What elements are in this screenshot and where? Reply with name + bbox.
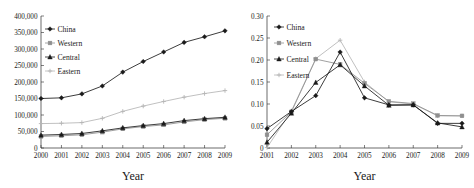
data-point-marker-plus <box>277 73 281 77</box>
data-point-marker-diamond <box>202 34 207 39</box>
data-point-marker-plus <box>141 104 145 108</box>
series-line <box>41 91 225 124</box>
data-point-marker-diamond <box>48 27 53 32</box>
y-tick-label: 0.25 <box>251 35 264 43</box>
y-tick-label: 0.10 <box>251 101 264 109</box>
data-point-marker-square <box>460 114 464 118</box>
y-tick-label: 0.05 <box>251 123 264 131</box>
y-tick-label: 50,000 <box>18 128 38 136</box>
x-tick-label: 2004 <box>333 152 348 160</box>
legend-marker-plus <box>45 69 55 73</box>
y-tick-label: 100,000 <box>14 112 38 120</box>
legend-marker-diamond <box>45 27 55 32</box>
y-tick-label: 0.30 <box>251 13 264 21</box>
data-point-marker-plus <box>161 99 165 103</box>
legend: ChinaWesternCentralEastern <box>45 25 82 76</box>
data-point-marker-plus <box>59 121 63 125</box>
data-point-marker-plus <box>100 116 104 120</box>
legend: ChinaWesternCentralEastern <box>274 23 311 80</box>
legend-marker-triangle <box>274 57 284 62</box>
legend-label-western: Western <box>58 39 83 48</box>
data-point-marker-plus <box>80 120 84 124</box>
x-tick-label: 2004 <box>116 152 131 160</box>
data-point-marker-diamond <box>460 121 465 126</box>
data-point-marker-diamond <box>338 50 343 55</box>
data-point-marker-plus <box>182 95 186 99</box>
data-point-marker-square <box>277 41 281 45</box>
x-tick-label: 2009 <box>218 152 233 160</box>
legend-label-central: Central <box>58 53 80 62</box>
x-tick-label: 2000 <box>34 152 49 160</box>
data-point-marker-diamond <box>223 29 228 34</box>
x-tick-label: 2002 <box>75 152 90 160</box>
x-tick-label: 2007 <box>406 152 421 160</box>
data-point-marker-plus <box>121 109 125 113</box>
y-tick-label: 0.15 <box>251 79 264 87</box>
legend-label-china: China <box>58 25 77 34</box>
data-point-marker-diamond <box>100 84 105 89</box>
x-tick-label: 2001 <box>54 152 69 160</box>
data-point-marker-diamond <box>277 25 282 30</box>
legend-marker-square <box>274 41 284 45</box>
data-point-marker-plus <box>265 145 269 149</box>
data-point-marker-diamond <box>362 96 367 101</box>
x-tick-label: 2009 <box>455 152 470 160</box>
y-tick-label: 150,000 <box>14 95 38 103</box>
x-tick-label: 2005 <box>357 152 372 160</box>
legend-label-central: Central <box>287 55 309 64</box>
series-line <box>41 117 225 135</box>
data-point-marker-diamond <box>313 93 318 98</box>
data-point-marker-diamond <box>80 92 85 97</box>
data-point-marker-plus <box>39 121 43 125</box>
y-tick-label: 400,000 <box>14 13 38 21</box>
data-point-marker-square <box>265 133 269 137</box>
legend-label-eastern: Eastern <box>58 67 81 76</box>
data-point-marker-triangle <box>313 80 318 85</box>
data-point-marker-square <box>314 57 318 61</box>
data-point-marker-diamond <box>182 40 187 45</box>
data-point-marker-square <box>48 41 52 45</box>
legend-label-western: Western <box>287 39 312 48</box>
x-tick-label: 2008 <box>430 152 445 160</box>
data-point-marker-diamond <box>120 70 125 75</box>
legend-marker-diamond <box>274 25 284 30</box>
x-axis-title: Year <box>122 169 144 183</box>
chart-panel-left: 050,000100,000150,000200,000250,000300,0… <box>0 0 237 188</box>
y-tick-label: 300,000 <box>14 46 38 54</box>
x-tick-label: 2006 <box>382 152 397 160</box>
y-tick-label: 0.20 <box>251 57 264 65</box>
legend-marker-plus <box>274 73 284 77</box>
left-chart-svg: 050,000100,000150,000200,000250,000300,0… <box>0 0 237 188</box>
data-point-marker-plus <box>202 91 206 95</box>
x-tick-label: 2003 <box>95 152 110 160</box>
series-western <box>39 116 227 138</box>
data-point-marker-plus <box>223 88 227 92</box>
data-point-marker-diamond <box>59 96 64 101</box>
data-point-marker-diamond <box>161 50 166 55</box>
data-point-marker-plus <box>48 69 52 73</box>
data-point-marker-diamond <box>141 59 146 64</box>
legend-marker-triangle <box>45 55 55 60</box>
two-panel-line-chart-figure: 050,000100,000150,000200,000250,000300,0… <box>0 0 474 188</box>
x-axis-title: Year <box>353 169 375 183</box>
y-tick-label: 350,000 <box>14 29 38 37</box>
x-tick-label: 2008 <box>197 152 212 160</box>
legend-label-eastern: Eastern <box>287 71 310 80</box>
x-tick-label: 2007 <box>177 152 192 160</box>
legend-marker-square <box>45 41 55 45</box>
x-tick-label: 2003 <box>309 152 324 160</box>
data-point-marker-diamond <box>39 96 44 101</box>
chart-panel-right: 00.050.100.150.200.250.30200120022003200… <box>237 0 474 188</box>
y-tick-label: 250,000 <box>14 62 38 70</box>
x-tick-label: 2002 <box>284 152 299 160</box>
data-point-marker-square <box>436 114 440 118</box>
x-tick-label: 2005 <box>136 152 151 160</box>
y-tick-label: 200,000 <box>14 79 38 87</box>
right-chart-svg: 00.050.100.150.200.250.30200120022003200… <box>237 0 474 188</box>
x-tick-label: 2006 <box>156 152 171 160</box>
series-central <box>39 115 228 137</box>
legend-label-china: China <box>287 23 306 32</box>
x-tick-label: 2001 <box>260 152 275 160</box>
